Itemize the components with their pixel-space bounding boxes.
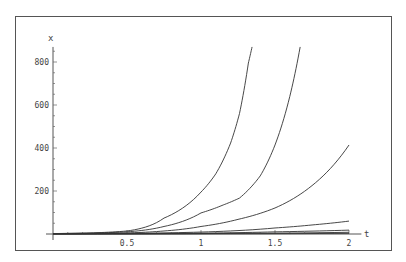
x-tick-label: 1.5 [268,239,283,248]
y-tick-label: 800 [35,58,50,67]
chart: 0.511.52200400600800 t x [0,0,406,262]
x-tick-label: 0.5 [120,239,135,248]
curve-4 [53,221,349,234]
x-tick-label: 1 [199,239,204,248]
y-tick-label: 600 [35,101,50,110]
x-tick-label: 2 [347,239,352,248]
curve-2 [53,47,300,234]
y-tick-label: 200 [35,187,50,196]
x-axis-label: t [364,229,369,239]
y-axis-label: x [48,33,54,43]
y-tick-label: 400 [35,144,50,153]
curves [53,47,349,234]
axes: 0.511.52200400600800 [35,47,362,248]
curve-3 [53,145,349,234]
